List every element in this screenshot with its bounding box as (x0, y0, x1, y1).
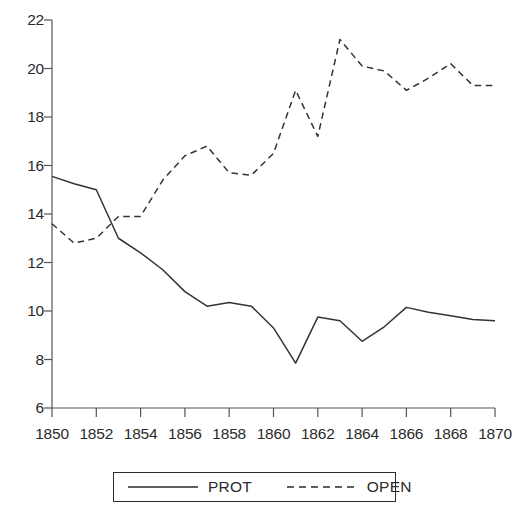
legend-entry-open: OPEN (286, 473, 412, 501)
legend-swatch-dashed-icon (286, 481, 358, 493)
legend-label-open: OPEN (367, 479, 412, 495)
legend-label-prot: PROT (208, 479, 252, 495)
legend-swatch-solid-icon (127, 481, 199, 493)
x-axis-tick-label: 1870 (465, 426, 517, 442)
chart-legend: PROT OPEN (113, 472, 396, 502)
legend-entry-prot: PROT (127, 473, 252, 501)
